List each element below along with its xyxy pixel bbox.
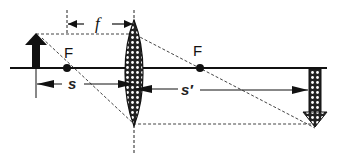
focal-point-left	[63, 64, 71, 72]
lens	[125, 20, 143, 126]
ray-focal	[42, 38, 315, 124]
focal-point-right	[196, 64, 204, 72]
focal-label-left: F	[64, 44, 73, 61]
focal-length-label: f	[95, 14, 102, 33]
object-distance-dimension	[37, 80, 134, 88]
focal-length-dimension	[68, 20, 133, 28]
image-distance-dimension	[134, 85, 308, 94]
focal-label-right: F	[193, 42, 202, 59]
image-arrow	[303, 69, 327, 127]
object-arrow	[25, 33, 47, 68]
object-distance-label: s	[68, 75, 76, 92]
image-distance-label: s′	[181, 81, 194, 98]
ray-parallel	[36, 34, 315, 128]
lens-diagram: F F f s s′	[0, 0, 339, 164]
